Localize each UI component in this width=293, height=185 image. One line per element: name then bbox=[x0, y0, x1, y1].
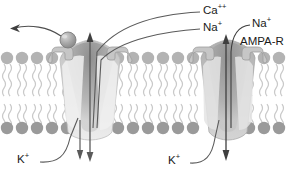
membrane-diagram-svg bbox=[0, 0, 293, 185]
label-ampa-receptor: AMPA-R bbox=[240, 36, 284, 48]
potassium-symbol-right: K bbox=[168, 154, 176, 166]
sodium-symbol-left: Na bbox=[203, 21, 218, 33]
sodium-charge-right: + bbox=[267, 15, 271, 24]
label-potassium-left: K+ bbox=[17, 154, 29, 166]
diagram-canvas: Ca++ Na+ Na+ AMPA-R K+ K+ bbox=[0, 0, 293, 185]
calcium-symbol: Ca bbox=[203, 4, 218, 16]
label-sodium-left: Na+ bbox=[203, 22, 222, 34]
label-calcium: Ca++ bbox=[203, 5, 226, 17]
potassium-charge-right: + bbox=[176, 152, 180, 161]
potassium-symbol-left: K bbox=[17, 153, 25, 165]
sodium-symbol-right: Na bbox=[252, 17, 267, 29]
potassium-charge-left: + bbox=[25, 151, 29, 160]
calcium-charge: ++ bbox=[218, 2, 227, 11]
label-sodium-right: Na+ bbox=[252, 18, 271, 30]
magnesium-block-sphere[interactable] bbox=[60, 32, 76, 48]
sodium-charge-left: + bbox=[218, 19, 222, 28]
label-potassium-right: K+ bbox=[168, 155, 180, 167]
